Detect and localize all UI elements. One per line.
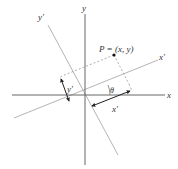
- theta-label: θ: [110, 86, 114, 95]
- x-axis-label: x: [166, 90, 171, 100]
- dashed-bracket-y-end: [59, 76, 62, 78]
- x-prime-distance-label: x': [111, 104, 119, 114]
- diagram-canvas: y x y' x' P = (x, y) θ x' y': [0, 0, 178, 169]
- rotated-axes-diagram: y x y' x' P = (x, y) θ x' y': [0, 0, 178, 169]
- dashed-bracket-x-end: [129, 84, 132, 91]
- y-prime-distance-label: y': [66, 84, 74, 94]
- y-axis-label: y: [81, 3, 86, 13]
- x-prime-axis-label: x': [158, 52, 166, 62]
- x-prime-axis: [14, 60, 158, 118]
- dashed-projection-to-x-prime: [114, 55, 129, 84]
- y-prime-axis-label: y': [37, 12, 45, 22]
- point-p-label: P = (x, y): [98, 44, 133, 54]
